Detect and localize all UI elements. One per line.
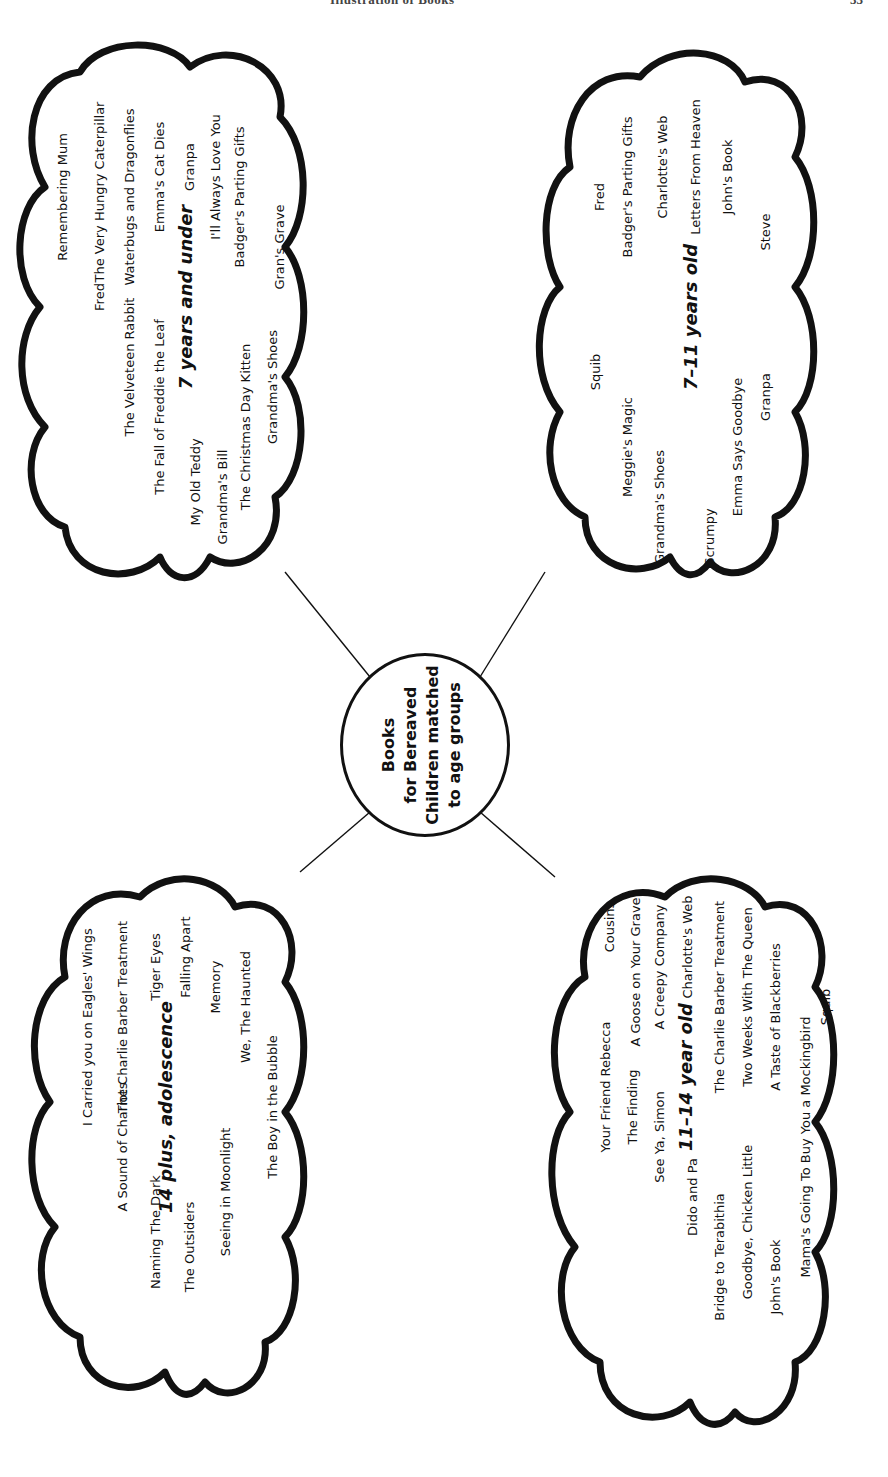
book-title: Naming The Dark: [148, 1175, 163, 1289]
book-title: John's Book: [768, 1239, 783, 1314]
book-title: Dido and Pa: [685, 1158, 700, 1236]
book-title: The Finding: [625, 1069, 640, 1144]
cloud-seven-to-eleven: Squib Fred Meggie's Magic Badger's Parti…: [530, 47, 810, 587]
cloud-seven-and-under: Remembering Mum Fred The Very Hungry Cat…: [10, 37, 310, 597]
book-title: Charlotte's Web: [680, 895, 695, 998]
book-title: The Outsiders: [182, 1202, 197, 1293]
center-topic: Books for Bereaved Children matched to a…: [340, 653, 510, 837]
book-title: Grandma's Shoes: [652, 450, 667, 564]
book-title: The Very Hungry Caterpillar: [92, 102, 107, 283]
book-title: Cousins: [602, 902, 617, 953]
book-title: Scrumpy: [702, 508, 717, 566]
book-title: Waterbugs and Dragonflies: [122, 108, 137, 285]
book-title: Granpa: [758, 373, 773, 421]
book-title: See Ya, Simon: [652, 1091, 667, 1182]
book-title: A Creepy Company: [652, 904, 667, 1029]
book-title: I Carried you on Eagles' Wings: [80, 928, 95, 1126]
book-title: Badger's Parting Gifts: [232, 126, 247, 267]
book-title: Fred: [592, 183, 607, 211]
book-title: John's Book: [720, 139, 735, 214]
book-title: Tiger Eyes: [148, 933, 163, 1001]
book-title: Badger's Parting Gifts: [620, 116, 635, 257]
book-title: The Charlie Barber Treatment: [712, 901, 727, 1093]
book-title: The Fall of Freddie the Leaf: [152, 319, 167, 494]
book-title: The Velveteen Rabbit: [122, 298, 137, 437]
book-title: I'll Always Love You: [208, 114, 223, 240]
mind-map: Remembering Mum Fred The Very Hungry Cat…: [0, 0, 888, 1477]
cloud-eleven-to-fourteen: Your Friend Rebecca Cousins The Finding …: [540, 867, 840, 1437]
book-title: Squib: [818, 989, 833, 1026]
book-title: Granpa: [182, 143, 197, 191]
book-title: Bridge to Terabithia: [712, 1193, 727, 1321]
book-title: Your Friend Rebecca: [598, 1022, 613, 1153]
cloud-fourteen-plus: I Carried you on Eagles' Wings The Charl…: [20, 877, 310, 1407]
book-title: Grandma's Shoes: [265, 330, 280, 444]
book-title: We, The Haunted: [238, 951, 253, 1063]
book-title: Seeing in Moonlight: [218, 1128, 233, 1257]
book-title: A Goose on Your Grave: [628, 897, 643, 1046]
center-title-line: for Bereaved: [400, 653, 422, 837]
book-title: Goodbye, Chicken Little: [740, 1145, 755, 1300]
center-title-line: Children matched: [422, 653, 444, 837]
book-title: Gran's Grave: [272, 204, 287, 289]
book-title: Grandma's Bill: [215, 450, 230, 545]
book-title: Emma's Cat Dies: [152, 122, 167, 233]
book-title: The Boy in the Bubble: [265, 1035, 280, 1179]
book-title: Remembering Mum: [55, 133, 70, 261]
book-title: The Christmas Day Kitten: [238, 344, 253, 510]
book-title: Fred: [92, 283, 107, 311]
age-group-label: 7–11 years old: [680, 244, 701, 390]
age-group-label: 7 years and under: [175, 205, 196, 389]
center-title-line: to age groups: [444, 653, 466, 837]
book-title: Charlotte's Web: [655, 115, 670, 218]
center-title-line: Books: [378, 653, 400, 837]
book-title: Letters From Heaven: [688, 99, 703, 234]
book-title: Mama's Going To Buy You a Mockingbird: [798, 1016, 813, 1277]
book-title: A Sound of Chariots: [115, 1083, 130, 1212]
book-title: A Taste of Blackberries: [768, 943, 783, 1091]
age-group-label: 11–14 year old: [675, 1003, 696, 1151]
book-title: Emma Says Goodbye: [730, 378, 745, 517]
book-title: Memory: [208, 961, 223, 1014]
book-title: My Old Teddy: [188, 438, 203, 525]
book-title: Squib: [588, 354, 603, 391]
book-title: Steve: [758, 213, 773, 250]
book-title: Falling Apart: [178, 916, 193, 997]
book-title: Meggie's Magic: [620, 397, 635, 497]
book-title: Two Weeks With The Queen: [740, 907, 755, 1087]
center-title: Books for Bereaved Children matched to a…: [378, 653, 466, 837]
